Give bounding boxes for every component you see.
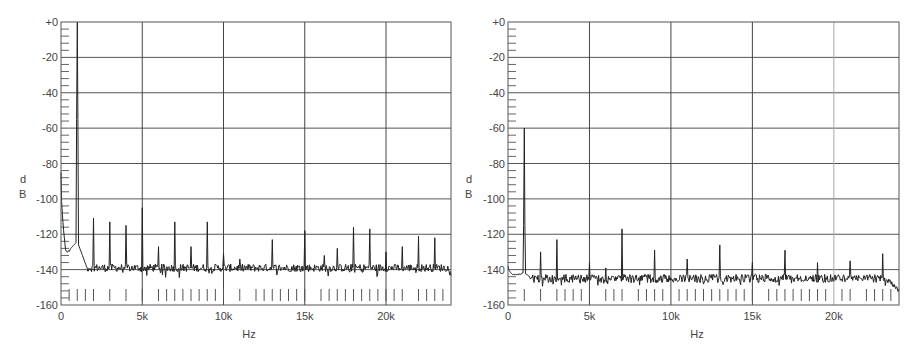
y-tick-label: -140 (483, 264, 505, 276)
y-tick-label: -120 (483, 228, 505, 240)
spectrum-line (61, 22, 451, 278)
y-tick-labels: +0-20-40-60-80-100-120-140-160 (483, 16, 505, 311)
x-tick-label: 15k (296, 310, 314, 322)
y-tick-label: -140 (36, 264, 58, 276)
x-tick-label: 0 (58, 310, 64, 322)
x-tick-label: 5k (584, 310, 596, 322)
y-tick-label: +0 (492, 16, 505, 28)
spectrum-line (508, 128, 899, 292)
spectrum-chart-left: +0-20-40-60-80-100-120-140-160 05k10k15k… (0, 0, 458, 355)
y-tick-label: -80 (489, 158, 505, 170)
y-axis-label-b: B (19, 188, 26, 200)
x-tick-label: 20k (377, 310, 395, 322)
spectrum-trace (508, 128, 899, 292)
y-tick-label: -40 (489, 87, 505, 99)
y-tick-label: -40 (42, 87, 58, 99)
x-axis-label: Hz (242, 328, 255, 340)
y-tick-label: -120 (36, 228, 58, 240)
y-tick-label: -80 (42, 158, 58, 170)
y-tick-labels: +0-20-40-60-80-100-120-140-160 (36, 16, 58, 311)
x-tick-labels: 05k10k15k20k (505, 310, 843, 322)
y-tick-label: +0 (45, 16, 58, 28)
y-tick-label: -100 (36, 193, 58, 205)
x-tick-label: 0 (505, 310, 511, 322)
marker-ticks (524, 289, 891, 301)
x-tick-label: 10k (662, 310, 680, 322)
x-tick-labels: 05k10k15k20k (58, 310, 395, 322)
x-tick-label: 5k (136, 310, 148, 322)
chart-right-svg: +0-20-40-60-80-100-120-140-160 05k10k15k… (458, 0, 917, 355)
y-tick-label: -20 (42, 51, 58, 63)
marker-ticks (69, 289, 443, 301)
y-tick-label: -20 (489, 51, 505, 63)
grid (508, 22, 899, 305)
y-axis-label-d: d (466, 173, 472, 185)
spectrum-trace (61, 22, 451, 278)
y-tick-label: -60 (489, 122, 505, 134)
x-tick-label: 20k (825, 310, 843, 322)
y-axis-label-b: B (465, 188, 472, 200)
x-axis-label: Hz (690, 328, 703, 340)
y-tick-label: -160 (36, 299, 58, 311)
spectrum-chart-right: +0-20-40-60-80-100-120-140-160 05k10k15k… (458, 0, 917, 355)
x-tick-label: 15k (744, 310, 762, 322)
y-axis-label-d: d (20, 173, 26, 185)
chart-left-svg: +0-20-40-60-80-100-120-140-160 05k10k15k… (0, 0, 458, 355)
grid (61, 22, 451, 305)
y-tick-label: -100 (483, 193, 505, 205)
y-tick-label: -160 (483, 299, 505, 311)
y-tick-label: -60 (42, 122, 58, 134)
x-tick-label: 10k (215, 310, 233, 322)
